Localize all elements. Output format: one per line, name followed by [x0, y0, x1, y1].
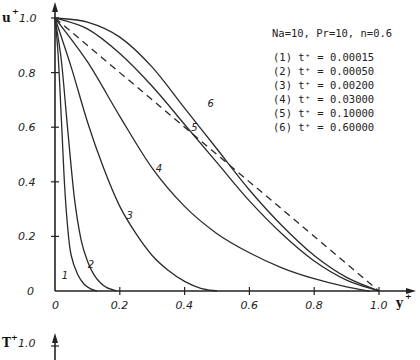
axes	[52, 2, 416, 294]
y-tick-label: 0.6	[18, 121, 36, 134]
x-tick-label: 1.0	[370, 299, 388, 312]
lower-y-axis-title-sup: +	[11, 332, 18, 342]
x-tick-label: 0.8	[305, 299, 323, 312]
y-axis-title: u	[2, 11, 11, 25]
x-axis-title-sup: +	[405, 291, 412, 301]
x-tick-label: 0.6	[240, 299, 258, 312]
curve-3	[55, 18, 217, 291]
y-tick-label: 0.4	[18, 176, 36, 189]
legend-entry: (5) t⁺ = 0.10000	[273, 107, 374, 119]
legend-entry: (4) t⁺ = 0.03000	[273, 93, 374, 105]
x-tick-label: 0.4	[176, 299, 194, 312]
curve-label-3: 3	[127, 210, 133, 221]
legend-entry: (1) t⁺ = 0.00015	[273, 51, 374, 63]
y-ticks: 00.20.40.60.81.0	[18, 12, 59, 298]
curve-label-4: 4	[156, 163, 162, 174]
x-tick-label: 0.2	[111, 299, 129, 312]
curve-label-2: 2	[88, 259, 94, 270]
chart-canvas: 00.20.40.60.81.0 00.20.40.60.81.0 u + y …	[0, 0, 420, 360]
legend-entry: (2) t⁺ = 0.00050	[273, 65, 374, 77]
legend-entry: (6) t⁺ = 0.60000	[273, 121, 374, 133]
x-axis-title: y	[395, 296, 404, 310]
y-tick-label: 0	[27, 285, 34, 298]
legend-entry: (3) t⁺ = 0.00200	[273, 79, 374, 91]
legend: (1) t⁺ = 0.00015(2) t⁺ = 0.00050(3) t⁺ =…	[273, 51, 374, 133]
y-tick-label: 1.0	[19, 12, 37, 25]
y-tick-label: 0.2	[18, 230, 36, 243]
y-tick-label: 0.8	[18, 67, 36, 80]
x-tick-label: 0	[52, 299, 59, 312]
parameter-annotation: Na=10, Pr=10, n=0.6	[272, 27, 392, 39]
curve-label-6: 6	[208, 98, 214, 109]
lower-panel: T + 1.0	[2, 332, 59, 360]
curve-label-5: 5	[191, 122, 197, 133]
y-axis-title-sup: +	[12, 6, 19, 16]
lower-y-tick-label: 1.0	[18, 337, 36, 350]
lower-y-axis-arrow-icon	[52, 333, 58, 343]
y-axis-arrow-icon	[52, 2, 58, 12]
curve-label-1: 1	[62, 270, 68, 281]
lower-y-axis-title: T	[2, 336, 11, 350]
